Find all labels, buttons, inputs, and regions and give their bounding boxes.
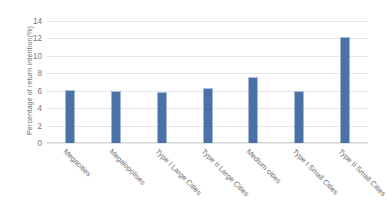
bar-slot bbox=[322, 21, 368, 143]
x-axis-tick-label: Type II Small Cities bbox=[337, 147, 388, 198]
bar-slot bbox=[93, 21, 139, 143]
bar bbox=[295, 91, 304, 143]
y-axis-tick-label: 0 bbox=[37, 139, 42, 148]
bar-slot bbox=[230, 21, 276, 143]
bar bbox=[341, 37, 350, 143]
bar bbox=[111, 91, 120, 143]
x-label-slot: Medium cities bbox=[230, 145, 276, 207]
x-axis-tick-label: Megacities bbox=[62, 147, 93, 178]
bar-slot bbox=[139, 21, 185, 143]
gridline: 0 bbox=[47, 143, 368, 144]
bar bbox=[203, 88, 212, 143]
bar bbox=[157, 92, 166, 143]
y-axis-tick-label: 12 bbox=[33, 34, 42, 43]
plot-area: 02468101214 bbox=[47, 21, 368, 143]
bar-slot bbox=[47, 21, 93, 143]
x-label-slot: Megalopolises bbox=[93, 145, 139, 207]
y-axis-tick-label: 10 bbox=[33, 51, 42, 60]
y-axis-tick-label: 4 bbox=[37, 104, 42, 113]
bar bbox=[65, 90, 74, 143]
x-label-slot: Type I Small Cities bbox=[276, 145, 322, 207]
x-label-slot: Megacities bbox=[47, 145, 93, 207]
bar-series bbox=[47, 21, 368, 143]
y-axis-tick-label: 6 bbox=[37, 86, 42, 95]
x-axis-tick-labels: MegacitiesMegalopolisesType I Large Citi… bbox=[47, 145, 368, 207]
bar-slot bbox=[185, 21, 231, 143]
x-label-slot: Type I Large Cities bbox=[139, 145, 185, 207]
bar bbox=[249, 77, 258, 143]
y-axis-tick-label: 8 bbox=[37, 69, 42, 78]
bar-slot bbox=[276, 21, 322, 143]
x-label-slot: Type II Small Cities bbox=[322, 145, 368, 207]
x-label-slot: Type II Large Cities bbox=[185, 145, 231, 207]
y-axis-tick-label: 2 bbox=[37, 121, 42, 130]
y-axis-tick-label: 14 bbox=[33, 17, 42, 26]
